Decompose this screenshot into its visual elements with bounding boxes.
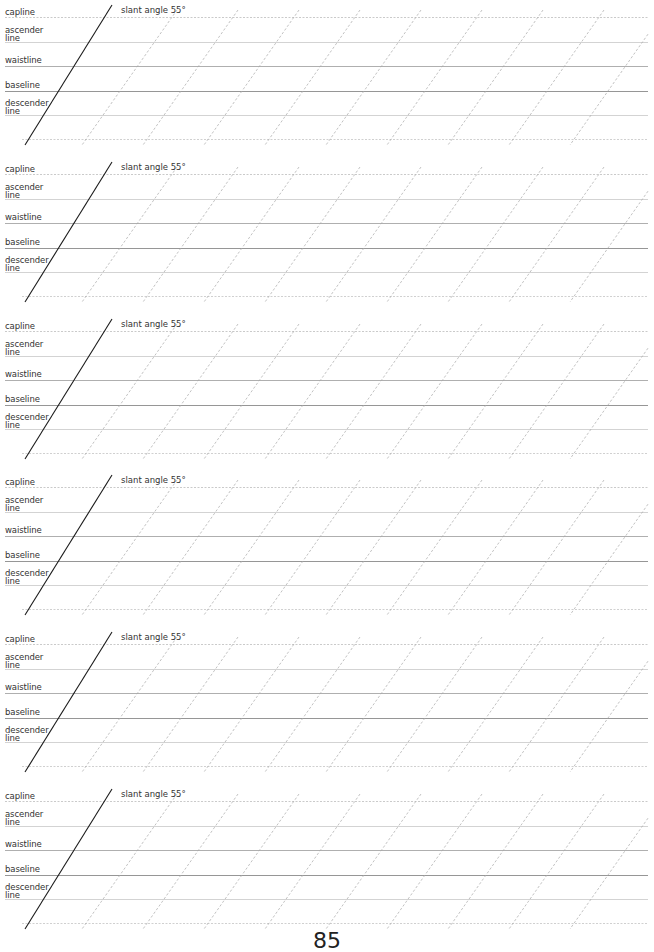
slant-guide-line xyxy=(143,10,238,145)
slant-guide-line xyxy=(509,324,604,459)
guideline-block-1: capline ascender line waistline baseline… xyxy=(0,5,654,155)
slant-guide-line xyxy=(570,34,648,145)
guideline-block-2: capline ascender line waistline baseline… xyxy=(0,162,654,312)
slant-guide-line xyxy=(326,480,421,615)
slant-guide-line xyxy=(387,10,482,145)
slant-angle-label: slant angle 55° xyxy=(121,476,186,485)
capline-label: capline xyxy=(5,478,35,486)
descender-line-label: descender line xyxy=(5,726,49,742)
ascender-line-label: ascender line xyxy=(5,810,43,826)
waistline-label: waistline xyxy=(5,683,42,691)
capline-label: capline xyxy=(5,792,35,800)
slant-guide-line xyxy=(326,167,421,302)
page-number: 85 xyxy=(0,929,654,952)
guideline-block-6: capline ascender line waistline baseline… xyxy=(0,789,654,939)
slant-guide-line xyxy=(387,794,482,929)
descender-line-label: descender line xyxy=(5,413,49,429)
slant-guide-line xyxy=(204,167,299,302)
slant-angle-label: slant angle 55° xyxy=(121,790,186,799)
slant-guide-line xyxy=(448,794,543,929)
slant-guide-line xyxy=(448,480,543,615)
guideline-block-4: capline ascender line waistline baseline… xyxy=(0,475,654,625)
guideline-grid xyxy=(0,789,654,939)
slant-angle-label: slant angle 55° xyxy=(121,320,186,329)
slant-guide-line xyxy=(204,10,299,145)
slant-guide-line xyxy=(326,10,421,145)
guideline-block-3: capline ascender line waistline baseline… xyxy=(0,319,654,469)
slant-guide-line xyxy=(570,505,648,616)
slant-guide-line xyxy=(265,324,360,459)
slant-guide-line xyxy=(448,324,543,459)
slant-guide-line xyxy=(326,637,421,772)
slant-guide-line xyxy=(448,10,543,145)
slant-guide-line xyxy=(509,167,604,302)
slant-guide-line xyxy=(143,480,238,615)
slant-guide-line xyxy=(387,637,482,772)
ascender-line-label: ascender line xyxy=(5,496,43,512)
slant-angle-label: slant angle 55° xyxy=(121,633,186,642)
slant-guide-line xyxy=(204,637,299,772)
slant-guide-line xyxy=(509,794,604,929)
guideline-block-5: capline ascender line waistline baseline… xyxy=(0,632,654,782)
guideline-grid xyxy=(0,475,654,625)
ascender-line-label: ascender line xyxy=(5,26,43,42)
descender-line-label: descender line xyxy=(5,99,49,115)
baseline-label: baseline xyxy=(5,865,40,873)
baseline-label: baseline xyxy=(5,81,40,89)
descender-line-label: descender line xyxy=(5,256,49,272)
baseline-label: baseline xyxy=(5,238,40,246)
descender-line-label: descender line xyxy=(5,883,49,899)
slant-guide-line xyxy=(265,794,360,929)
slant-angle-label: slant angle 55° xyxy=(121,6,186,15)
slant-guide-line xyxy=(509,480,604,615)
slant-guide-line xyxy=(387,167,482,302)
guideline-grid xyxy=(0,632,654,782)
slant-guide-line xyxy=(143,167,238,302)
slant-guide-line xyxy=(326,794,421,929)
capline-label: capline xyxy=(5,8,35,16)
ascender-line-label: ascender line xyxy=(5,340,43,356)
waistline-label: waistline xyxy=(5,840,42,848)
guideline-grid xyxy=(0,162,654,312)
slant-guide-line xyxy=(509,637,604,772)
slant-guide-line xyxy=(570,818,648,929)
baseline-label: baseline xyxy=(5,708,40,716)
slant-guide-line xyxy=(448,637,543,772)
baseline-label: baseline xyxy=(5,395,40,403)
capline-label: capline xyxy=(5,635,35,643)
slant-guide-line xyxy=(204,794,299,929)
slant-guide-line xyxy=(265,167,360,302)
slant-guide-line xyxy=(265,10,360,145)
slant-angle-label: slant angle 55° xyxy=(121,163,186,172)
slant-guide-line xyxy=(265,637,360,772)
slant-guide-line xyxy=(326,324,421,459)
descender-line-label: descender line xyxy=(5,569,49,585)
slant-guide-line xyxy=(204,324,299,459)
slant-guide-line xyxy=(570,348,648,459)
guideline-grid xyxy=(0,319,654,469)
slant-guide-line xyxy=(570,661,648,772)
waistline-label: waistline xyxy=(5,370,42,378)
slant-guide-line xyxy=(509,10,604,145)
waistline-label: waistline xyxy=(5,213,42,221)
slant-guide-line xyxy=(143,637,238,772)
slant-guide-line xyxy=(204,480,299,615)
slant-guide-line xyxy=(143,324,238,459)
slant-guide-line xyxy=(448,167,543,302)
baseline-label: baseline xyxy=(5,551,40,559)
waistline-label: waistline xyxy=(5,56,42,64)
slant-guide-line xyxy=(570,191,648,302)
slant-guide-line xyxy=(265,480,360,615)
guideline-grid xyxy=(0,5,654,155)
slant-guide-line xyxy=(143,794,238,929)
capline-label: capline xyxy=(5,322,35,330)
capline-label: capline xyxy=(5,165,35,173)
slant-guide-line xyxy=(387,480,482,615)
ascender-line-label: ascender line xyxy=(5,653,43,669)
ascender-line-label: ascender line xyxy=(5,183,43,199)
waistline-label: waistline xyxy=(5,526,42,534)
slant-guide-line xyxy=(387,324,482,459)
